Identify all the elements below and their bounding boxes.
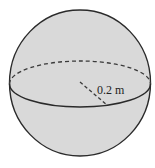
sphere-diagram: 0.2 m [0, 0, 155, 168]
sphere-body [10, 10, 151, 156]
radius-label: 0.2 m [97, 83, 125, 97]
